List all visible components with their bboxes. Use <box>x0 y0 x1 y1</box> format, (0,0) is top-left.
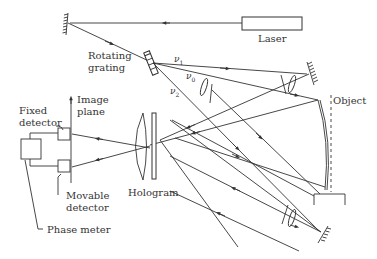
fixed-detector-label-1: Fixed <box>19 105 47 116</box>
lens-upper-right <box>287 75 297 94</box>
nu2-label: ν2 <box>170 86 179 100</box>
laser-label: Laser <box>258 33 286 44</box>
hologram-label: Hologram <box>128 187 179 198</box>
optical-diagram: Laser Rotating grating ν1 ν0 ν2 Object I… <box>0 0 377 259</box>
mirror-top-left-icon <box>63 13 69 35</box>
mirror-bottom-right-icon <box>318 226 331 243</box>
mirror-right-icon <box>307 62 318 85</box>
hologram-plate <box>152 113 156 179</box>
rotating-grating-label-2: grating <box>88 62 125 73</box>
phase-meter <box>21 139 41 159</box>
laser-box <box>242 17 302 30</box>
rotating-grating-label-1: Rotating <box>88 50 132 61</box>
object-icon <box>314 95 345 205</box>
nu1-label: ν1 <box>174 54 183 68</box>
image-plane-label-2: plane <box>77 106 105 117</box>
movable-detector-label-1: Movable <box>66 190 109 201</box>
lens-lower <box>287 209 297 228</box>
object-label: Object <box>333 95 366 106</box>
fixed-detector-label-2: detector <box>19 117 62 128</box>
nu0-label: ν0 <box>186 71 195 85</box>
fixed-detector <box>58 128 70 140</box>
image-plane-label-1: Image <box>77 94 109 105</box>
movable-detector <box>58 160 70 172</box>
diagram-canvas <box>0 0 377 259</box>
lens-upper-left <box>199 78 209 97</box>
phase-meter-label: Phase meter <box>47 224 110 235</box>
movable-detector-label-2: detector <box>66 202 109 213</box>
